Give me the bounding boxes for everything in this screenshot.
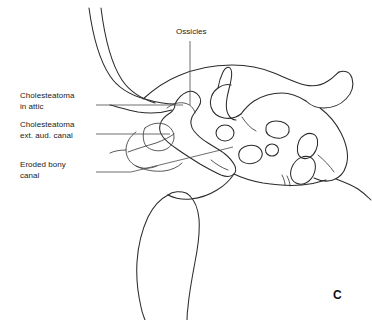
label-eroded-bony-canal-line2: canal bbox=[20, 171, 66, 182]
label-cholesteatoma-ext-aud-canal-line1: Cholesteatoma bbox=[20, 120, 74, 131]
mastoid-detail-septum bbox=[282, 175, 285, 185]
mastoid-superior-lobe bbox=[306, 71, 353, 108]
label-cholesteatoma-in-attic-line2: in attic bbox=[20, 102, 74, 113]
mastoid-detail-septum-2 bbox=[287, 176, 290, 186]
ear-canal-inner-wall bbox=[101, 8, 155, 103]
air-cell-round bbox=[216, 125, 234, 141]
mastoid-air-cell-1 bbox=[266, 121, 289, 138]
label-cholesteatoma-in-attic: Cholesteatoma in attic bbox=[20, 91, 74, 112]
mastoid-air-cell-2 bbox=[266, 144, 279, 156]
ear-canal-superior-wall bbox=[89, 8, 175, 104]
label-eroded-bony-canal-line1: Eroded bony bbox=[20, 160, 66, 171]
tympanic-remnant bbox=[110, 150, 126, 153]
antrum-medial-wall bbox=[210, 85, 241, 119]
occipital-contour bbox=[336, 179, 371, 200]
styloid-process-inner bbox=[187, 196, 199, 320]
eroded-canal-floor bbox=[136, 163, 182, 171]
skull-base-contour bbox=[234, 174, 326, 185]
attic-roof bbox=[241, 93, 306, 114]
mastoid-air-cell-3 bbox=[297, 133, 317, 158]
styloid-process-outer bbox=[137, 195, 168, 320]
label-ossicles: Ossicles bbox=[176, 27, 207, 38]
mastoid-air-cell-4 bbox=[291, 156, 316, 184]
label-eroded-bony-canal: Eroded bony canal bbox=[20, 160, 66, 181]
tegmen-tympani-contour bbox=[143, 65, 339, 99]
mastoid-cortex-right bbox=[314, 108, 347, 181]
label-cholesteatoma-ext-aud-canal: Cholesteatoma ext. aud. canal bbox=[20, 120, 74, 141]
middle-ear-detail-1 bbox=[242, 117, 256, 131]
temporal-bone-inferior-edge bbox=[168, 174, 234, 199]
mastoid-air-cell-5 bbox=[239, 145, 262, 163]
label-cholesteatoma-in-attic-line1: Cholesteatoma bbox=[20, 91, 74, 102]
label-ossicles-line1: Ossicles bbox=[176, 27, 207, 36]
label-cholesteatoma-ext-aud-canal-line2: ext. aud. canal bbox=[20, 131, 74, 142]
styloid-process-tip bbox=[168, 192, 190, 196]
incus-long-process bbox=[218, 67, 236, 120]
figure-panel: Ossicles Cholesteatoma in attic Choleste… bbox=[0, 0, 372, 320]
middle-ear-detail-2 bbox=[211, 160, 228, 170]
ear-canal-inferior-wall bbox=[110, 105, 172, 113]
sigmoid-sinus-curve bbox=[318, 155, 334, 172]
panel-letter: C bbox=[333, 288, 342, 302]
